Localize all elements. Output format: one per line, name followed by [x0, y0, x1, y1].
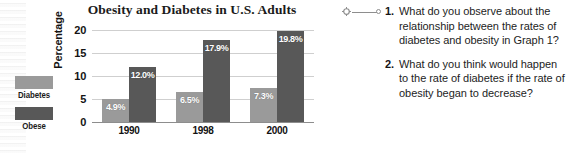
bar-group-2000: 7.3% 19.8% — [240, 30, 314, 122]
question-number-2: 2. — [385, 57, 399, 101]
y-tick-0: 0 — [80, 116, 86, 128]
bar-label-obese-1998: 17.9% — [204, 42, 230, 53]
bar-group-1990: 4.9% 12.0% — [92, 30, 166, 122]
plot-area: 4.9% 12.0% 6.5% 17.9% — [92, 30, 314, 123]
legend-swatch-obese — [15, 107, 53, 120]
question-text-2: What do you think would happen to the ra… — [399, 57, 565, 101]
legend-item-diabetes: Diabetes — [8, 76, 60, 100]
x-label-1990: 1990 — [94, 124, 164, 136]
x-label-2000: 2000 — [242, 124, 312, 136]
plot-wrapper: 0 5 10 15 20 4.9% 12.0% — [68, 30, 314, 122]
y-tick-5: 5 — [80, 93, 86, 105]
bar-series-container: 4.9% 12.0% 6.5% 17.9% — [92, 30, 314, 122]
bar-obese-1998[interactable]: 17.9% — [203, 40, 230, 122]
legend-label-diabetes: Diabetes — [10, 90, 58, 100]
bar-obese-2000[interactable]: 19.8% — [277, 31, 304, 122]
cog-icon — [342, 7, 351, 16]
x-axis-labels: 1990 1998 2000 — [92, 124, 314, 136]
question-number-1: 1. — [385, 4, 399, 48]
y-tick-10: 10 — [74, 70, 86, 82]
y-tick-20: 20 — [74, 24, 86, 36]
legend-label-obese: Obese — [10, 121, 58, 131]
circle-dot-icon — [376, 9, 381, 14]
bar-label-diabetes-1998: 6.5% — [177, 94, 203, 105]
bar-label-obese-2000: 19.8% — [278, 33, 304, 44]
question-text-1: What do you observe about the relationsh… — [399, 4, 565, 48]
bar-group-1998: 6.5% 17.9% — [166, 30, 240, 122]
bar-label-obese-1990: 12.0% — [130, 69, 156, 80]
legend-swatch-diabetes — [15, 76, 53, 89]
questions-panel: 1. What do you observe about the relatio… — [385, 4, 565, 110]
legend-item-obese: Obese — [8, 107, 60, 131]
chart-title: Obesity and Diabetes in U.S. Adults — [62, 2, 322, 18]
worksheet-page: Obesity and Diabetes in U.S. Adults Diab… — [0, 0, 567, 153]
bar-obese-1990[interactable]: 12.0% — [129, 67, 156, 122]
connector-line — [352, 12, 378, 14]
callout-connector — [342, 4, 386, 20]
bar-diabetes-1998[interactable]: 6.5% — [176, 92, 203, 122]
chart-panel: Obesity and Diabetes in U.S. Adults Diab… — [0, 0, 372, 153]
bar-label-diabetes-2000: 7.3% — [251, 90, 277, 101]
question-item-1: 1. What do you observe about the relatio… — [385, 4, 565, 48]
y-axis-label: Percentage — [52, 5, 64, 75]
bar-diabetes-1990[interactable]: 4.9% — [102, 99, 129, 122]
bar-diabetes-2000[interactable]: 7.3% — [250, 88, 277, 122]
x-label-1998: 1998 — [168, 124, 238, 136]
bar-label-diabetes-1990: 4.9% — [103, 101, 129, 112]
y-tick-15: 15 — [74, 47, 86, 59]
question-item-2: 2. What do you think would happen to the… — [385, 57, 565, 101]
y-axis-ticks: 0 5 10 15 20 — [68, 30, 88, 122]
chart-legend: Diabetes Obese — [8, 76, 60, 138]
